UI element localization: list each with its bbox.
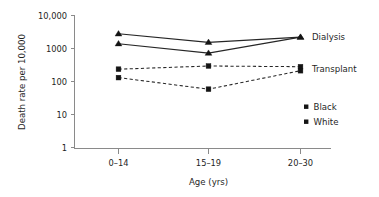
y-tick-label-1000: 1000 [46, 44, 67, 54]
y-tick-label-100: 100 [51, 77, 67, 87]
series-transplant-black [116, 64, 303, 72]
marker-dialysis-white-2 [297, 34, 304, 39]
legend-swatch-white [304, 120, 308, 124]
x-tick-label-0: 0–14 [109, 158, 129, 168]
annotation-dialysis: Dialysis [312, 32, 346, 42]
chart-plot-area: 10,000 1000 100 10 1 0–14 15–19 20–30 Ag… [0, 0, 379, 197]
marker-dialysis-black-0 [115, 31, 122, 36]
legend-label-white: White [314, 117, 339, 127]
y-tick-label-10000: 10,000 [38, 11, 67, 21]
series-line-transplant-white [119, 71, 301, 90]
marker-transplant-white-1 [206, 87, 211, 92]
annotation-transplant: Transplant [311, 64, 357, 74]
x-tick-label-2: 20–30 [288, 158, 313, 168]
y-tick-labels: 10,000 1000 100 10 1 [38, 11, 67, 153]
chart-legend: Black White [304, 102, 339, 127]
y-tick-label-1: 1 [62, 143, 67, 153]
x-tick-marks [119, 149, 301, 154]
y-axis-title: Death rate per 10,000 [17, 34, 27, 130]
legend-label-black: Black [314, 102, 337, 112]
x-axis-title: Age (yrs) [189, 177, 228, 187]
x-tick-labels: 0–14 15–19 20–30 [109, 158, 314, 168]
marker-transplant-white-2 [298, 68, 303, 73]
series-line-dialysis-white [119, 37, 301, 53]
series-transplant-white [116, 68, 303, 91]
marker-transplant-white-0 [116, 75, 121, 80]
chart-figure: 10,000 1000 100 10 1 0–14 15–19 20–30 Ag… [0, 0, 379, 197]
marker-transplant-black-0 [116, 67, 121, 72]
marker-dialysis-white-0 [115, 41, 122, 46]
x-tick-label-1: 15–19 [196, 158, 221, 168]
legend-swatch-black [304, 105, 308, 109]
y-tick-label-10: 10 [56, 110, 67, 120]
y-tick-marks [71, 16, 75, 148]
marker-transplant-black-1 [206, 64, 211, 69]
series-dialysis-black [115, 31, 304, 45]
axis-group [75, 15, 332, 149]
